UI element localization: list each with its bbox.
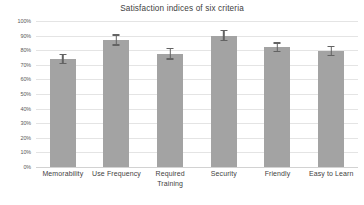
error-bar [59,54,66,64]
bar-memorability[interactable] [50,59,76,167]
error-bar [274,42,281,52]
error-bar-cap-bottom [328,55,335,56]
error-bar-cap-bottom [220,40,227,41]
x-axis-tick-label-line: Use Frequency [90,169,144,179]
y-axis-tick-label: 40% [21,106,32,112]
y-axis-tick-label: 10% [21,149,32,155]
bar-group [90,21,144,167]
x-axis-tick-label-line: Easy to Learn [304,169,358,179]
error-bar-cap-bottom [113,44,120,45]
error-bar-cap-top [167,48,174,49]
x-axis-tick-label-line: Security [197,169,251,179]
error-bar-cap-top [274,42,281,43]
chart-title: Satisfaction indices of six criteria [0,4,364,13]
bar-group [304,21,358,167]
x-axis-tick-label-line: Required [143,169,197,179]
x-axis-tick-label: Easy to Learn [304,169,358,179]
x-axis-tick-label: RequiredTraining [143,169,197,188]
bar-group [197,21,251,167]
x-axis-tick-label: Memorability [36,169,90,179]
x-axis-tick-label-line: Memorability [36,169,90,179]
bar-chart: Satisfaction indices of six criteria 0%1… [0,0,364,205]
bar-security[interactable] [211,36,237,167]
bar-easy-to-learn[interactable] [318,51,344,167]
y-axis-tick-label: 60% [21,76,32,82]
error-bar-cap-bottom [59,63,66,64]
bar-group [36,21,90,167]
error-bar-cap-top [220,30,227,31]
y-axis-tick-label: 50% [21,91,32,97]
bar-group [143,21,197,167]
error-bar [328,46,335,56]
error-bar [113,34,120,46]
error-bar-cap-top [328,46,335,47]
y-axis-tick-label: 90% [21,33,32,39]
x-axis-tick-label: Friendly [251,169,305,179]
bar-required-training[interactable] [157,54,183,167]
bars-layer [36,21,358,167]
x-axis: MemorabilityUse FrequencyRequiredTrainin… [36,169,358,203]
x-axis-tick-label-line: Friendly [251,169,305,179]
y-axis-tick-label: 20% [21,135,32,141]
x-axis-tick-label: Use Frequency [90,169,144,179]
x-axis-tick-label-line: Training [143,179,197,189]
error-bar [220,30,227,42]
y-axis-tick-label: 70% [21,62,32,68]
y-axis-tick-label: 80% [21,47,32,53]
bar-friendly[interactable] [264,47,290,167]
y-axis-tick-label: 100% [18,18,31,24]
x-axis-tick-label: Security [197,169,251,179]
y-axis-tick-label: 30% [21,120,32,126]
y-axis-tick-label: 0% [23,164,31,170]
error-bar-cap-bottom [167,58,174,59]
error-bar [167,48,174,60]
bar-group [251,21,305,167]
gridline-0% [36,167,358,168]
bar-use-frequency[interactable] [103,40,129,167]
y-axis: 0%10%20%30%40%50%60%70%80%90%100% [0,21,34,167]
error-bar-cap-bottom [274,51,281,52]
error-bar-cap-top [113,34,120,35]
error-bar-cap-top [59,54,66,55]
